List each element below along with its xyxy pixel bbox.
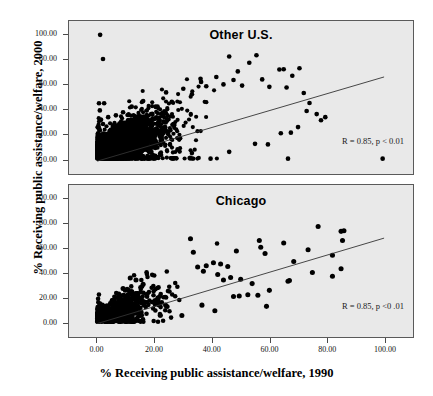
y-tick-mark (63, 323, 68, 324)
y-tick-mark (63, 59, 68, 60)
x-tick-mark (385, 338, 386, 343)
scatter-plot-other-us (69, 21, 413, 174)
y-tick-mark (63, 160, 68, 161)
y-tick-mark (63, 223, 68, 224)
panel-title-chicago: Chicago (69, 194, 413, 208)
y-tick-label: 0.00 (13, 318, 57, 327)
correlation-annotation-chicago: R = 0.85, p <0 .01 (342, 301, 404, 311)
x-tick-mark (212, 338, 213, 343)
x-tick-label: 80.00 (304, 345, 350, 354)
x-tick-mark (96, 338, 97, 343)
x-tick-label: 20.00 (131, 345, 177, 354)
x-tick-label: 60.00 (247, 345, 293, 354)
y-tick-mark (63, 134, 68, 135)
scatter-panel-other-us: Other U.S. R = 0.85, p < 0.01 (68, 20, 414, 175)
correlation-annotation-other-us: R = 0.85, p < 0.01 (342, 136, 404, 146)
x-tick-label: 0.00 (73, 345, 119, 354)
y-tick-mark (63, 84, 68, 85)
figure-root: Other U.S. R = 0.85, p < 0.01 Chicago R … (0, 0, 433, 396)
y-tick-mark (63, 248, 68, 249)
x-tick-label: 100.00 (362, 345, 408, 354)
x-tick-mark (270, 338, 271, 343)
y-tick-mark (63, 273, 68, 274)
y-tick-mark (63, 109, 68, 110)
panel-title-other-us: Other U.S. (69, 28, 413, 42)
x-tick-mark (327, 338, 328, 343)
y-axis-title: % Receiving public assistance/welfare, 2… (31, 8, 46, 308)
x-axis-title: % Receiving public assistance/welfare, 1… (0, 366, 433, 381)
y-tick-mark (63, 34, 68, 35)
x-tick-label: 40.00 (189, 345, 235, 354)
scatter-panel-chicago: Chicago R = 0.85, p <0 .01 (68, 184, 414, 338)
y-tick-mark (63, 198, 68, 199)
x-tick-mark (154, 338, 155, 343)
y-tick-mark (63, 298, 68, 299)
